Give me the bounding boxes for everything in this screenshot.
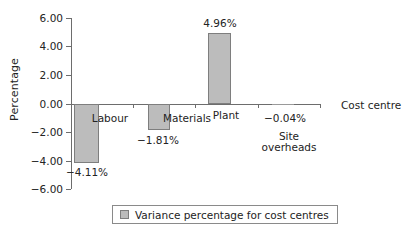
y-tick-label-neg2: −2.00 bbox=[17, 127, 63, 138]
variance-bar-chart: Percentage 6.00 4.00 2.00 0.00 −2.00 −4.… bbox=[0, 0, 417, 237]
value-label-materials: −1.81% bbox=[134, 135, 182, 146]
bar-plant bbox=[208, 33, 231, 104]
category-label-site-overheads: Site overheads bbox=[252, 131, 326, 153]
bar-site-overheads bbox=[272, 104, 294, 105]
y-tick-mark-0 bbox=[66, 104, 71, 105]
y-tick-label-6: 6.00 bbox=[17, 13, 63, 24]
x-axis-title: Cost centre bbox=[341, 99, 401, 111]
y-tick-label-neg4: −4.00 bbox=[17, 156, 63, 167]
legend-label: Variance percentage for cost centres bbox=[135, 209, 329, 221]
category-label-plant: Plant bbox=[206, 110, 246, 121]
x-tick-mark-4 bbox=[320, 104, 321, 108]
y-tick-mark-6 bbox=[66, 18, 71, 19]
y-tick-mark-2 bbox=[66, 75, 71, 76]
chart-legend: Variance percentage for cost centres bbox=[112, 205, 338, 224]
y-tick-mark-neg6 bbox=[66, 189, 71, 190]
y-tick-label-2: 2.00 bbox=[17, 70, 63, 81]
x-tick-mark-1 bbox=[133, 104, 134, 108]
y-tick-mark-neg4 bbox=[66, 161, 71, 162]
y-tick-label-0: 0.00 bbox=[17, 99, 63, 110]
y-tick-label-4: 4.00 bbox=[17, 41, 63, 52]
category-label-labour: Labour bbox=[88, 113, 132, 124]
value-label-labour: −4.11% bbox=[63, 167, 111, 178]
y-axis-title: Percentage bbox=[8, 45, 21, 135]
value-label-plant: 4.96% bbox=[196, 18, 244, 29]
legend-swatch-icon bbox=[120, 210, 129, 219]
value-label-site-overheads: −0.04% bbox=[261, 113, 309, 124]
y-tick-mark-4 bbox=[66, 46, 71, 47]
x-tick-mark-3 bbox=[258, 104, 259, 108]
y-tick-label-neg6: −6.00 bbox=[17, 184, 63, 195]
y-tick-mark-neg2 bbox=[66, 132, 71, 133]
x-tick-mark-2 bbox=[195, 104, 196, 108]
category-label-site-overheads-line2: overheads bbox=[262, 141, 317, 153]
